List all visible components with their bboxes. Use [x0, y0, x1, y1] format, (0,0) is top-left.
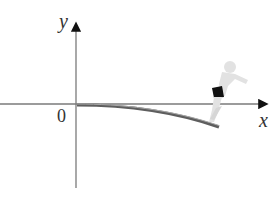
x-axis-label: x: [259, 109, 268, 132]
diving-board-diagram: y 0 x: [0, 0, 280, 198]
y-axis-label: y: [59, 10, 68, 33]
diver: [209, 61, 248, 122]
origin-label: 0: [57, 106, 66, 127]
diagram-canvas: [0, 0, 280, 198]
diving-board: [77, 105, 219, 127]
